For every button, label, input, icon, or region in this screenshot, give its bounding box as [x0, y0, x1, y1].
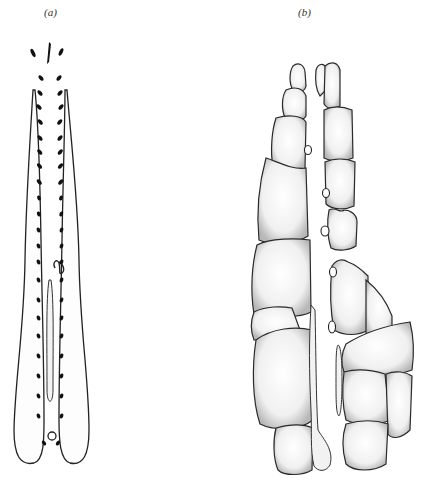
block-right-3 [324, 107, 353, 161]
block-left-5 [252, 239, 311, 317]
somite-dot [57, 148, 64, 155]
terminal-pit [48, 432, 56, 440]
panel-b-drawing [251, 63, 413, 475]
block-right-10 [386, 372, 412, 438]
somite-dot [56, 118, 63, 125]
right-neural-fold [59, 90, 89, 463]
head-mark-center [47, 42, 51, 64]
somite-dot [56, 74, 63, 81]
block-right-2 [324, 63, 340, 109]
somite-dot [57, 89, 64, 96]
small-oval-1 [305, 146, 312, 155]
head-mark-right [58, 48, 65, 57]
block-right-11 [343, 421, 388, 470]
block-right-5 [328, 209, 357, 250]
head-mark-left [29, 48, 36, 58]
small-oval-3 [321, 226, 329, 236]
left-neural-fold [14, 90, 44, 463]
notochord-right [336, 345, 342, 416]
block-left-1 [290, 64, 306, 92]
block-right-9 [343, 370, 390, 425]
block-left-8 [274, 425, 313, 475]
somite-dot [38, 74, 45, 81]
notochord-left [310, 305, 331, 470]
figure-canvas [0, 0, 430, 487]
block-left-4 [258, 158, 308, 243]
somite-dot [57, 134, 64, 141]
somite-dot [58, 103, 65, 110]
small-oval-2 [323, 189, 330, 198]
small-oval-5 [329, 321, 336, 333]
block-right-4 [325, 159, 355, 209]
block-left-7 [253, 328, 313, 429]
panel-a-drawing [14, 42, 89, 463]
neural-tube [47, 280, 53, 401]
small-oval-4 [330, 267, 337, 277]
somite-dot [37, 89, 44, 96]
